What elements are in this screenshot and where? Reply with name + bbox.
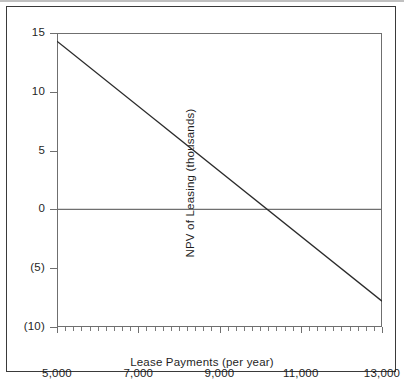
- x-major-tick: [382, 327, 383, 333]
- chart-figure: NPV of Leasing (thousands) Lease Payment…: [0, 0, 404, 384]
- x-minor-tick: [195, 327, 196, 331]
- x-tick-label: 13,000: [347, 367, 404, 379]
- x-minor-tick: [341, 327, 342, 331]
- x-minor-tick: [179, 327, 180, 331]
- x-minor-tick: [65, 327, 66, 331]
- x-minor-tick: [285, 327, 286, 331]
- y-tick-label: 10: [1, 86, 45, 98]
- x-minor-tick: [211, 327, 212, 331]
- plot-area: 151050(5)(10) 5,0007,0009,00011,00013,00…: [57, 33, 382, 327]
- x-minor-tick: [228, 327, 229, 331]
- x-minor-tick: [81, 327, 82, 331]
- y-tick: [50, 92, 57, 93]
- x-tick-label: 11,000: [266, 367, 336, 379]
- x-minor-tick: [130, 327, 131, 331]
- x-minor-tick: [317, 327, 318, 331]
- x-minor-tick: [358, 327, 359, 331]
- x-tick-label: 7,000: [103, 367, 173, 379]
- x-minor-tick: [268, 327, 269, 331]
- x-tick-label: 9,000: [185, 367, 255, 379]
- x-minor-tick: [163, 327, 164, 331]
- x-minor-tick: [236, 327, 237, 331]
- x-minor-tick: [309, 327, 310, 331]
- x-minor-tick: [114, 327, 115, 331]
- x-minor-tick: [155, 327, 156, 331]
- y-tick-label: 15: [1, 27, 45, 39]
- y-tick-label: 5: [1, 145, 45, 157]
- x-minor-tick: [252, 327, 253, 331]
- x-minor-tick: [276, 327, 277, 331]
- x-major-tick: [301, 327, 302, 333]
- y-tick: [50, 209, 57, 210]
- x-minor-tick: [98, 327, 99, 331]
- y-tick: [50, 151, 57, 152]
- y-tick: [50, 268, 57, 269]
- x-minor-tick: [374, 327, 375, 331]
- x-minor-tick: [146, 327, 147, 331]
- y-tick: [50, 33, 57, 34]
- x-minor-tick: [244, 327, 245, 331]
- x-minor-tick: [325, 327, 326, 331]
- x-minor-tick: [366, 327, 367, 331]
- x-minor-tick: [260, 327, 261, 331]
- series-layer: [57, 33, 382, 327]
- npv-of-leasing-line: [57, 41, 382, 301]
- y-tick-label: 0: [1, 203, 45, 215]
- x-minor-tick: [293, 327, 294, 331]
- x-minor-tick: [333, 327, 334, 331]
- x-minor-tick: [73, 327, 74, 331]
- x-major-tick: [138, 327, 139, 333]
- x-tick-label: 5,000: [22, 367, 92, 379]
- x-minor-tick: [106, 327, 107, 331]
- x-minor-tick: [187, 327, 188, 331]
- x-minor-tick: [171, 327, 172, 331]
- x-minor-tick: [90, 327, 91, 331]
- x-major-tick: [57, 327, 58, 333]
- x-major-tick: [220, 327, 221, 333]
- y-tick-label: (10): [1, 321, 45, 333]
- y-tick: [50, 327, 57, 328]
- x-minor-tick: [350, 327, 351, 331]
- y-tick-label: (5): [1, 262, 45, 274]
- x-minor-tick: [203, 327, 204, 331]
- x-minor-tick: [122, 327, 123, 331]
- scan-edge-artifact: [0, 0, 404, 2]
